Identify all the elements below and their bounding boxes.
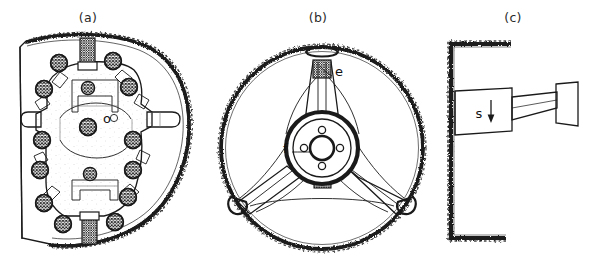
panel-b-label-f: f bbox=[283, 141, 288, 156]
bolt-head bbox=[83, 167, 96, 180]
bolt-head bbox=[34, 132, 51, 149]
bolt-head bbox=[36, 81, 53, 98]
technical-figure: (a) bbox=[0, 0, 592, 265]
bolt-head bbox=[36, 195, 53, 212]
bolt-head bbox=[55, 216, 72, 233]
panel-a-label-o: o bbox=[103, 111, 111, 126]
bolt-head bbox=[32, 162, 49, 179]
bolt-head bbox=[125, 132, 142, 149]
panel-c-caption: (c) bbox=[504, 10, 522, 25]
panel-b-label-e: e bbox=[335, 64, 343, 79]
bolt-head bbox=[105, 53, 122, 70]
bolt-head bbox=[81, 81, 94, 94]
panel-c-label-s: s bbox=[476, 106, 483, 121]
bolt-head-center bbox=[80, 119, 97, 136]
panel-b-thread-collar bbox=[313, 60, 331, 78]
bolt-head bbox=[121, 79, 138, 96]
bolt-head bbox=[125, 162, 142, 179]
panel-b-caption: (b) bbox=[309, 10, 328, 25]
bolt-head bbox=[51, 55, 68, 72]
bolt-head bbox=[107, 214, 124, 231]
panel-b-hub bbox=[286, 112, 358, 184]
panel-a-caption: (a) bbox=[79, 10, 97, 25]
panel-b-hub-bore bbox=[310, 136, 334, 160]
bolt-head bbox=[120, 189, 137, 206]
